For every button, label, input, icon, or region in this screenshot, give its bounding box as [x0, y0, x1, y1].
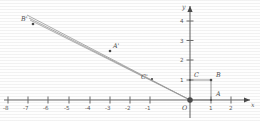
- origin-label: O: [182, 104, 188, 112]
- y-axis-arrow-icon: [187, 6, 192, 12]
- y-tick-labels: 1 2 3 4: [180, 18, 184, 83]
- x-tick-label: -6: [43, 105, 49, 111]
- x-tick-label: 1: [209, 105, 213, 111]
- y-tick-label: 4: [180, 18, 184, 24]
- point-label-A-prime: A': [112, 42, 120, 50]
- x-tick-label: -1: [145, 105, 151, 111]
- point-label-B-prime: B': [20, 15, 28, 23]
- y-tick-label: 1: [180, 77, 184, 83]
- y-axis-label: y: [181, 3, 186, 11]
- x-axis-label: x: [251, 101, 255, 108]
- y-tick-label: 3: [180, 38, 184, 44]
- dilation-rays: [27, 15, 190, 100]
- x-tick-label: -2: [125, 105, 131, 111]
- point-marker-C: [189, 79, 191, 81]
- rectangle-oabc-path: [190, 80, 211, 100]
- x-tick-label: -5: [64, 105, 70, 111]
- figure-canvas: x y -8 -7 -6 -: [0, 0, 260, 121]
- x-tick-label: -3: [105, 105, 111, 111]
- ray-to-c-prime: [30, 20, 190, 100]
- x-tick-label: -4: [85, 105, 91, 111]
- rectangle-oabc: [190, 80, 211, 100]
- point-label-B: B: [215, 71, 221, 79]
- x-tick-labels: -8 -7 -6 -5 -4 -3 -2 -1 1 2: [3, 105, 233, 111]
- coordinate-diagram: x y -8 -7 -6 -: [0, 0, 260, 121]
- x-tick-label: 2: [229, 105, 233, 111]
- x-axis-arrow-icon: [244, 97, 250, 102]
- point-marker-B: [210, 79, 213, 82]
- point-marker-A-prime: [109, 50, 112, 53]
- point-label-C-prime: C': [141, 73, 148, 81]
- point-label-A: A: [215, 90, 221, 98]
- x-tick-label: -8: [3, 105, 9, 111]
- point-label-C: C: [194, 71, 199, 79]
- point-marker-C-prime: [151, 78, 153, 80]
- point-marker-B-prime: [32, 23, 35, 26]
- x-tick-label: -7: [23, 105, 29, 111]
- point-marker-origin: [188, 98, 192, 102]
- point-marker-A: [210, 99, 212, 101]
- y-tick-label: 2: [180, 57, 184, 63]
